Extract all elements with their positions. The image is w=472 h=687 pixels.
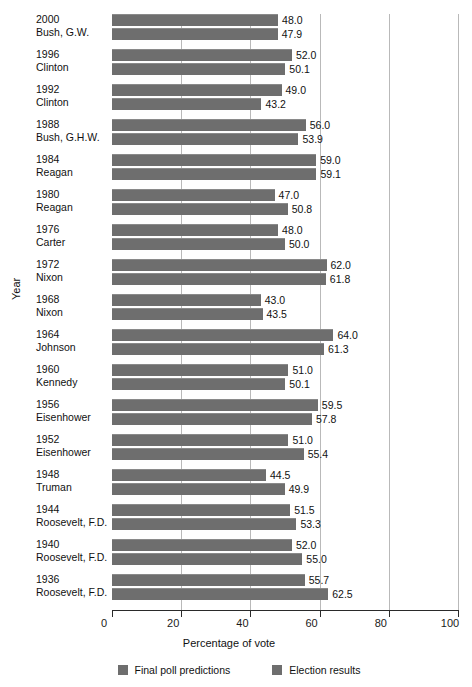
- bar-election-result: [112, 28, 278, 40]
- row-label: 1972Nixon: [36, 258, 108, 283]
- bar-value-election-result: 50.1: [289, 379, 309, 390]
- bar-poll-prediction: [112, 84, 282, 96]
- bar-poll-prediction: [112, 329, 333, 341]
- bar-group: 1988Bush, G.H.W.56.053.9: [0, 119, 472, 144]
- bar-election-result: [112, 98, 261, 110]
- row-label: 1968Nixon: [36, 293, 108, 318]
- legend-swatch: [272, 665, 282, 675]
- bar-value-poll-prediction: 55.7: [309, 575, 329, 586]
- bar-election-result: [112, 203, 288, 215]
- row-label-year: 2000: [36, 13, 108, 26]
- row-label: 1976Carter: [36, 223, 108, 248]
- bar-group: 1960Kennedy51.050.1: [0, 364, 472, 389]
- row-label: 1948Truman: [36, 468, 108, 493]
- bar-group: 1972Nixon62.061.8: [0, 259, 472, 284]
- row-label-candidate: Eisenhower: [36, 446, 108, 459]
- row-label-candidate: Eisenhower: [36, 411, 108, 424]
- bar-group: 1984Reagan59.059.1: [0, 154, 472, 179]
- bar-poll-prediction: [112, 399, 318, 411]
- row-label-year: 1976: [36, 223, 108, 236]
- row-label: 1992Clinton: [36, 83, 108, 108]
- bar-poll-prediction: [112, 154, 316, 166]
- row-label-candidate: Carter: [36, 236, 108, 249]
- tick-mark-0: [112, 610, 113, 617]
- row-label-year: 1984: [36, 153, 108, 166]
- bar-election-result: [112, 413, 312, 425]
- row-label: 2000Bush, G.W.: [36, 13, 108, 38]
- bar-group: 1968Nixon43.043.5: [0, 294, 472, 319]
- bar-group: 1956Eisenhower59.557.8: [0, 399, 472, 424]
- bar-value-poll-prediction: 48.0: [282, 225, 302, 236]
- row-label-year: 1960: [36, 363, 108, 376]
- row-label-year: 1988: [36, 118, 108, 131]
- bar-value-election-result: 43.5: [267, 309, 287, 320]
- bar-poll-prediction: [112, 259, 327, 271]
- bar-group: 1948Truman44.549.9: [0, 469, 472, 494]
- bar-value-poll-prediction: 52.0: [296, 540, 316, 551]
- row-label-year: 1992: [36, 83, 108, 96]
- bar-election-result: [112, 238, 285, 250]
- tick-mark-80: [389, 610, 390, 617]
- bar-value-poll-prediction: 48.0: [282, 15, 302, 26]
- legend-label: Final poll predictions: [135, 664, 231, 676]
- bar-poll-prediction: [112, 574, 305, 586]
- bar-poll-prediction: [112, 14, 278, 26]
- bar-chart: 020406080100 2000Bush, G.W.48.047.91996C…: [0, 0, 472, 687]
- bar-poll-prediction: [112, 434, 288, 446]
- bar-poll-prediction: [112, 364, 288, 376]
- legend-swatch: [118, 665, 128, 675]
- bar-poll-prediction: [112, 504, 290, 516]
- bar-poll-prediction: [112, 469, 266, 481]
- bar-value-poll-prediction: 44.5: [270, 470, 290, 481]
- row-label: 1988Bush, G.H.W.: [36, 118, 108, 143]
- row-label-candidate: Bush, G.W.: [36, 26, 108, 39]
- bar-value-election-result: 49.9: [289, 484, 309, 495]
- bar-group: 1936Roosevelt, F.D.55.762.5: [0, 574, 472, 599]
- tick-label-20: 20: [167, 617, 179, 629]
- row-label-candidate: Roosevelt, F.D.: [36, 551, 108, 564]
- bar-value-poll-prediction: 51.0: [292, 435, 312, 446]
- legend-item: Election results: [272, 664, 360, 676]
- tick-label-0: 0: [101, 617, 107, 629]
- row-label-candidate: Clinton: [36, 61, 108, 74]
- bar-value-poll-prediction: 43.0: [265, 295, 285, 306]
- row-label-candidate: Bush, G.H.W.: [36, 131, 108, 144]
- row-label-candidate: Roosevelt, F.D.: [36, 586, 108, 599]
- bar-group: 1976Carter48.050.0: [0, 224, 472, 249]
- bar-election-result: [112, 448, 304, 460]
- x-axis-baseline: [112, 610, 458, 611]
- bar-value-election-result: 53.3: [300, 519, 320, 530]
- bar-election-result: [112, 133, 298, 145]
- row-label-year: 1972: [36, 258, 108, 271]
- row-label: 1936Roosevelt, F.D.: [36, 573, 108, 598]
- bar-group: 1952Eisenhower51.055.4: [0, 434, 472, 459]
- bar-value-election-result: 55.0: [306, 554, 326, 565]
- bar-value-election-result: 59.1: [320, 169, 340, 180]
- bar-group: 1964Johnson64.061.3: [0, 329, 472, 354]
- bar-election-result: [112, 483, 285, 495]
- row-label-candidate: Johnson: [36, 341, 108, 354]
- row-label-candidate: Nixon: [36, 306, 108, 319]
- row-label-year: 1952: [36, 433, 108, 446]
- row-label-year: 1944: [36, 503, 108, 516]
- row-label-year: 1940: [36, 538, 108, 551]
- bar-election-result: [112, 343, 324, 355]
- bar-poll-prediction: [112, 294, 261, 306]
- row-label-candidate: Reagan: [36, 201, 108, 214]
- x-axis-title: Percentage of vote: [0, 637, 458, 649]
- row-label: 1996Clinton: [36, 48, 108, 73]
- row-label-year: 1956: [36, 398, 108, 411]
- bar-poll-prediction: [112, 49, 292, 61]
- bar-group: 1992Clinton49.043.2: [0, 84, 472, 109]
- bar-value-election-result: 53.9: [302, 134, 322, 145]
- row-label: 1940Roosevelt, F.D.: [36, 538, 108, 563]
- row-label-year: 1968: [36, 293, 108, 306]
- bar-value-poll-prediction: 64.0: [337, 330, 357, 341]
- row-label: 1984Reagan: [36, 153, 108, 178]
- row-label-year: 1936: [36, 573, 108, 586]
- tick-mark-40: [250, 610, 251, 617]
- bar-value-poll-prediction: 59.0: [320, 155, 340, 166]
- bar-group: 2000Bush, G.W.48.047.9: [0, 14, 472, 39]
- bar-value-poll-prediction: 49.0: [286, 85, 306, 96]
- bar-value-poll-prediction: 62.0: [331, 260, 351, 271]
